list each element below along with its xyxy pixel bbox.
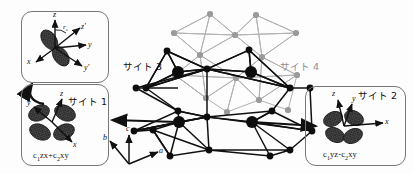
crystal-axes-triad [0, 0, 413, 174]
crystal-axis-label-b: b [103, 134, 107, 142]
crystal-axis-label-a: a [159, 147, 163, 155]
crystal-axis-label-c: c [126, 125, 130, 133]
figure-root: z z' y y' x rs z y x サイト 1 c1zx+c2xy [0, 0, 413, 174]
